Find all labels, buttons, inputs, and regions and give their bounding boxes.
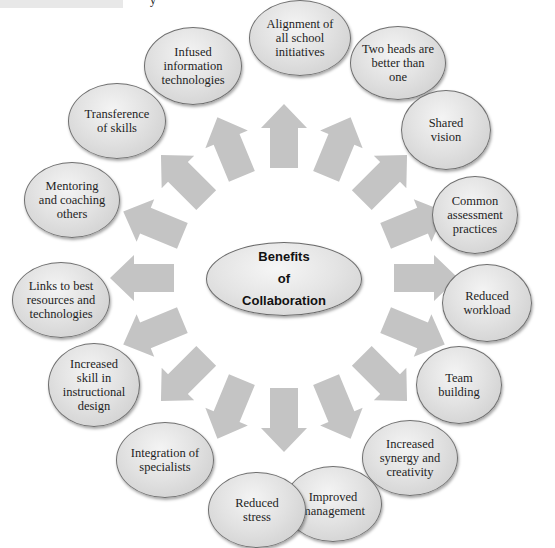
benefit-infused-it: Infused information technologies [144,27,242,105]
benefit-transference-skills: Transference of skills [68,83,166,159]
benefit-instructional-design: Increased skill in instructional design [48,343,140,427]
benefit-integration-specialists: Integration of specialists [116,422,214,498]
benefit-common-assessment: Common assessment practices [432,176,518,254]
benefit-label: Mentoring and coaching others [36,179,108,221]
arrow-icon [346,340,424,418]
benefit-label: Common assessment practices [441,194,509,236]
benefit-label: Infused information technologies [155,45,231,87]
arrow-icon [145,340,223,418]
central-topic-line-3: Collaboration [242,290,326,312]
arrow-icon [196,108,263,185]
benefit-shared-vision: Shared vision [401,90,491,170]
central-topic-line-2: of [278,268,290,290]
arrow-icon [114,190,191,257]
benefit-label: Increased skill in instructional design [60,357,128,413]
central-topic: Benefits of Collaboration [206,242,362,316]
benefit-label: Transference of skills [80,107,154,135]
central-topic-line-1: Benefits [258,246,309,268]
benefit-links-resources: Links to best resources and technologies [12,262,110,338]
benefit-two-heads: Two heads are better than one [350,26,446,100]
arrow-icon [305,371,372,448]
benefit-label: Team building [434,371,484,399]
arrow-icon [261,104,307,168]
arrow-icon [305,108,372,185]
arrow-icon [145,139,223,217]
benefit-reduced-workload: Reduced workload [442,264,532,342]
benefit-label: Two heads are better than one [361,42,435,84]
arrow-icon [196,371,263,448]
benefit-team-building: Team building [416,346,502,424]
benefit-label: Reduced workload [457,289,517,317]
benefit-label: Links to best resources and technologies [21,279,101,321]
arrow-icon [261,388,307,452]
benefit-label: Integration of specialists [125,446,205,474]
arrow-icon [110,255,174,301]
benefit-alignment: Alignment of all school initiatives [249,0,351,76]
benefit-label: Alignment of all school initiatives [264,17,336,59]
benefit-label: Increased synergy and creativity [372,437,448,479]
benefit-reduced-stress: Reduced stress [208,472,306,548]
benefit-label: Shared vision [421,116,471,144]
benefit-synergy: Increased synergy and creativity [362,420,458,496]
benefit-mentoring: Mentoring and coaching others [24,162,120,238]
benefit-label: Reduced stress [232,496,282,524]
